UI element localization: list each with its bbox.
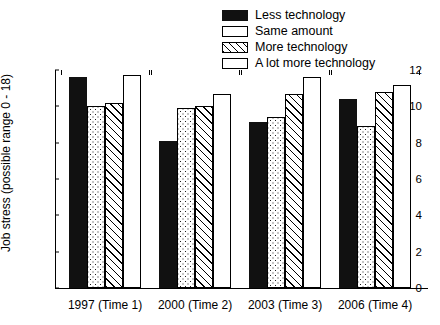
legend-swatch-dotted-icon [222,26,248,37]
bar [87,106,105,288]
bar [123,75,141,288]
y-axis-tick-label: 12 [409,64,422,76]
y-axis-tick-mark [55,179,59,180]
y-axis-tick-label: 10 [409,100,422,112]
x-axis-tick-mark [419,70,420,75]
chart-legend: Less technology Same amount More technol… [222,8,436,72]
x-axis-group-label: 1997 (Time 1) [68,298,142,312]
bar [213,94,231,288]
legend-item-label: Less technology [255,9,345,22]
bar [159,141,177,288]
y-axis-tick-mark [55,142,59,143]
bar [267,117,285,288]
y-axis-tick-label: 4 [416,209,422,221]
bar [393,85,411,288]
legend-item-label: A lot more technology [255,57,375,70]
y-axis-tick-label: 2 [416,246,422,258]
bar [303,77,321,288]
legend-item: Less technology [222,8,436,23]
x-axis-labels: 1997 (Time 1)2000 (Time 2)2003 (Time 3)2… [55,289,428,319]
bar [375,92,393,288]
bar [285,94,303,288]
legend-item: More technology [222,40,436,55]
x-axis-tick-mark [61,70,62,75]
legend-item-label: Same amount [255,25,333,38]
legend-swatch-hatched-icon [222,42,248,53]
legend-swatch-solid-black-icon [222,10,248,21]
bar [69,77,87,288]
x-axis-tick-mark [331,70,332,75]
x-axis-tick-mark [241,70,242,75]
y-axis-title-label: Job stress (possible range 0 - 18) [0,73,13,251]
y-axis-tick-mark [55,251,59,252]
bar [357,126,375,288]
legend-item: Same amount [222,24,436,39]
x-axis-group-label: 2006 (Time 4) [338,298,412,312]
y-axis-tick-label: 8 [416,137,422,149]
y-axis-tick-label: 6 [416,173,422,185]
legend-item-label: More technology [255,41,347,54]
legend-item: A lot more technology [222,56,436,71]
x-axis-group-label: 2000 (Time 2) [158,298,232,312]
x-axis-tick-mark [329,70,330,75]
x-axis-tick-mark [149,70,150,75]
y-axis-tick-mark [55,215,59,216]
x-axis-group-label: 2003 (Time 3) [248,298,322,312]
y-axis-title: Job stress (possible range 0 - 18) [0,0,14,325]
y-axis-tick-mark [55,70,59,71]
y-axis-tick-mark [55,106,59,107]
y-axis-line [55,70,56,289]
bar [249,122,267,288]
bar [177,108,195,288]
bar [105,103,123,288]
legend-swatch-plain-white-icon [222,58,248,69]
x-axis-tick-mark [151,70,152,75]
bar [195,106,213,288]
plot-area: 024681012 [55,70,428,288]
bar [339,99,357,288]
x-axis-tick-mark [239,70,240,75]
